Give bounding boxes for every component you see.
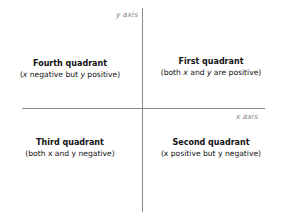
x-axis-line: [22, 108, 265, 109]
third-quadrant-title: Third quadrant: [0, 137, 140, 148]
first-quadrant-title: First quadrant: [141, 56, 281, 67]
second-quadrant-desc: (x positive but y negative): [141, 148, 281, 159]
y-axis-label: y axis: [116, 10, 138, 19]
first-quadrant-desc: (both x and y are positive): [141, 67, 281, 78]
third-quadrant: Third quadrant (both x and y negative): [0, 137, 140, 159]
third-quadrant-desc: (both x and y negative): [0, 148, 140, 159]
second-quadrant-title: Second quadrant: [141, 137, 281, 148]
fourth-quadrant-title: Fourth quadrant: [0, 58, 140, 69]
first-quadrant: First quadrant (both x and y are positiv…: [141, 56, 281, 78]
second-quadrant: Second quadrant (x positive but y negati…: [141, 137, 281, 159]
x-axis-label: x axis: [236, 112, 258, 121]
fourth-quadrant: Fourth quadrant (x negative but y positi…: [0, 58, 140, 80]
y-axis-line: [142, 8, 143, 212]
fourth-quadrant-desc: (x negative but y positive): [0, 69, 140, 80]
